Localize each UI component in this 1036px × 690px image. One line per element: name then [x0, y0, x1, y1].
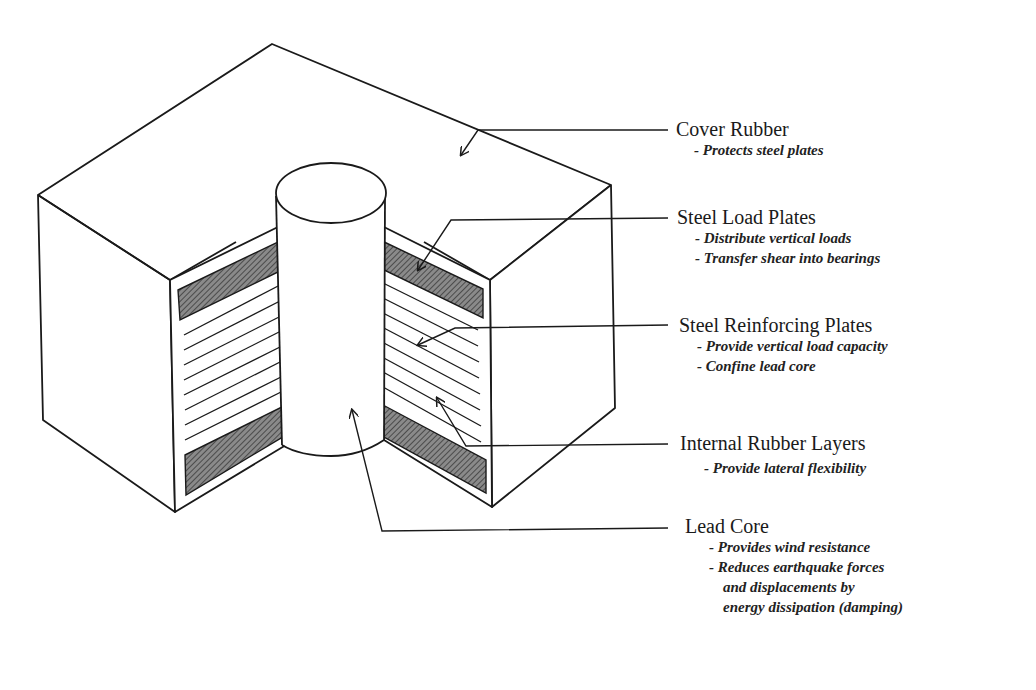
label-title: Cover Rubber [676, 118, 824, 140]
label-description: - Confine lead core [697, 356, 888, 376]
leader-cover-rubber [461, 130, 668, 155]
label-description: and displacements by [723, 577, 903, 597]
label-description: - Distribute vertical loads [695, 228, 880, 248]
label-description: - Transfer shear into bearings [695, 248, 880, 268]
lead-core-cylinder [276, 163, 386, 456]
label-steel-load-plates: Steel Load Plates - Distribute vertical … [677, 206, 880, 268]
label-internal-rubber-layers: Internal Rubber Layers - Provide lateral… [680, 432, 866, 478]
label-description: energy dissipation (damping) [723, 597, 903, 617]
label-description: - Protects steel plates [694, 140, 824, 160]
label-title: Lead Core [685, 515, 903, 537]
left-outer-face [38, 195, 175, 512]
label-description: - Reduces earthquake forces [709, 557, 903, 577]
label-title: Internal Rubber Layers [680, 432, 866, 454]
label-lead-core: Lead Core - Provides wind resistance - R… [685, 515, 903, 617]
label-steel-reinforcing-plates: Steel Reinforcing Plates - Provide verti… [679, 314, 888, 376]
label-cover-rubber: Cover Rubber - Protects steel plates [676, 118, 824, 160]
label-title: Steel Load Plates [677, 206, 880, 228]
label-description: - Provide vertical load capacity [697, 336, 888, 356]
label-description: - Provides wind resistance [709, 537, 903, 557]
label-title: Steel Reinforcing Plates [679, 314, 888, 336]
label-description: - Provide lateral flexibility [704, 458, 866, 478]
right-outer-face [490, 185, 615, 507]
